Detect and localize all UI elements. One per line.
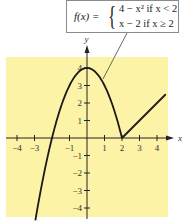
formula-case-1: 4 − x² if x < 2 xyxy=(119,3,177,14)
x-tick-label: 2 xyxy=(120,143,125,153)
y-tick-label: 1 xyxy=(78,116,83,126)
brace-symbol: { xyxy=(108,1,116,31)
y-axis-arrow-icon xyxy=(85,45,90,53)
y-tick-label: −3 xyxy=(72,186,82,196)
formula-box: f(x) = { 4 − x² if x < 2 x − 2 if x ≥ 2 xyxy=(66,0,179,33)
x-tick-label: −4 xyxy=(12,143,22,153)
x-axis-label: x xyxy=(177,133,182,143)
y-tick-label: −2 xyxy=(72,168,82,178)
y-tick-label: 3 xyxy=(78,81,83,91)
x-tick-label: 4 xyxy=(155,143,160,153)
y-tick-label: −4 xyxy=(72,203,82,213)
y-axis-label: y xyxy=(84,34,89,44)
x-tick-label: 3 xyxy=(137,143,142,153)
piecewise-function-graph: xy−4−3−11234−4−3−2−11234 xyxy=(0,0,185,224)
y-tick-label: −1 xyxy=(72,151,82,161)
x-axis-arrow-icon xyxy=(166,136,174,141)
y-tick-label: 2 xyxy=(78,98,83,108)
x-tick-label: −3 xyxy=(30,143,40,153)
x-tick-label: 1 xyxy=(102,143,107,153)
formula-lhs: f(x) = xyxy=(74,10,99,22)
formula-case-2: x − 2 if x ≥ 2 xyxy=(119,18,174,29)
